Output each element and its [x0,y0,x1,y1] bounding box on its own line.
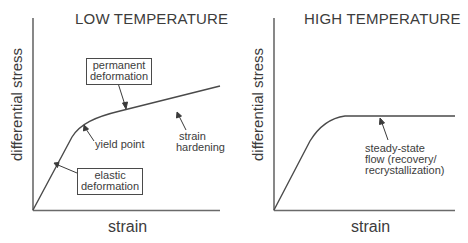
x-axis-label: strain [351,218,390,236]
panel-high-temperature: HIGH TEMPERATURE differential stress str… [234,0,468,243]
permanent-deformation-label: permanent deformation [86,58,152,85]
label-line: recrystallization) [365,165,444,176]
steady-state-flow-label: steady-state flow (recovery/ recrystalli… [365,143,444,176]
panel-title: HIGH TEMPERATURE [304,10,461,27]
label-line: deformation [90,71,148,82]
label-line: hardening [176,142,225,153]
label-line: deformation [81,181,139,192]
panel-title: LOW TEMPERATURE [75,10,228,27]
elastic-deformation-label: elastic deformation [77,168,143,195]
yield-point-label: yield point [95,139,145,150]
x-axis-label: strain [108,218,147,236]
strain-hardening-label: strain hardening [176,131,225,153]
y-axis-label: differential stress [8,48,25,161]
panel-low-temperature: LOW TEMPERATURE differential stress stra… [0,0,234,243]
y-axis-label: differential stress [249,48,266,161]
